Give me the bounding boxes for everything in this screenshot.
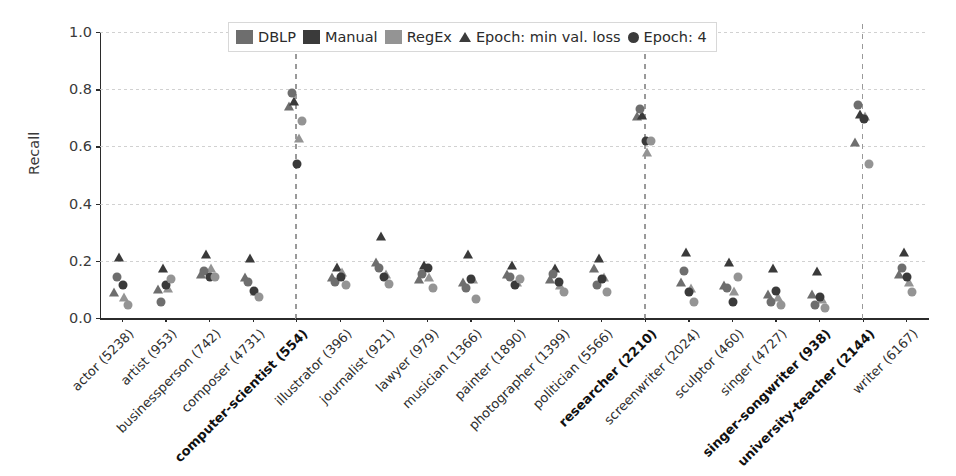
recall-scatter-chart: Recall 0.00.20.40.60.81.0 actor (5238)ar…: [0, 0, 956, 476]
reference-line: [644, 24, 646, 320]
data-point-triangle: [724, 258, 734, 267]
data-point-circle: [244, 278, 253, 287]
x-tick-mark: [688, 318, 689, 322]
x-tick-label: politician (5566): [530, 326, 616, 412]
data-point-circle: [733, 272, 742, 281]
y-tick-label: 0.4: [69, 196, 92, 212]
y-tick-mark: [96, 318, 100, 319]
data-point-circle: [679, 266, 688, 275]
x-tick-mark: [122, 318, 123, 322]
data-point-circle: [298, 116, 307, 125]
legend-label: Manual: [325, 29, 378, 45]
color-swatch-icon: [385, 30, 402, 44]
data-point-circle: [864, 159, 873, 168]
data-point-circle: [646, 136, 655, 145]
circle-marker-icon: [628, 32, 639, 43]
x-tick-mark: [340, 318, 341, 322]
data-point-circle: [603, 288, 612, 297]
gridline: [100, 89, 928, 90]
data-point-circle: [559, 288, 568, 297]
data-point-circle: [341, 281, 350, 290]
y-tick-label: 0.0: [69, 310, 92, 326]
data-point-circle: [123, 301, 132, 310]
x-tick-label: journalist (921): [317, 326, 398, 407]
data-point-circle: [118, 281, 127, 290]
data-point-circle: [821, 303, 830, 312]
data-point-triangle: [376, 232, 386, 241]
x-tick-mark: [558, 318, 559, 322]
data-point-triangle: [201, 249, 211, 258]
reference-line: [295, 24, 297, 320]
data-point-circle: [423, 263, 432, 272]
chart-legend: DBLPManualRegExEpoch: min val. lossEpoch…: [228, 22, 717, 52]
data-point-circle: [210, 272, 219, 281]
y-tick-label: 0.8: [69, 81, 92, 97]
legend-item[interactable]: Epoch: 4: [628, 29, 707, 45]
data-point-triangle: [642, 148, 652, 157]
data-point-triangle: [899, 248, 909, 257]
x-tick-mark: [645, 318, 646, 322]
legend-item[interactable]: Manual: [303, 29, 378, 45]
legend-label: Epoch: min val. loss: [476, 29, 621, 45]
x-tick-mark: [209, 318, 210, 322]
data-point-circle: [723, 283, 732, 292]
data-point-triangle: [676, 278, 686, 287]
data-point-circle: [859, 115, 868, 124]
data-point-triangle: [681, 248, 691, 257]
x-tick-mark: [383, 318, 384, 322]
legend-label: RegEx: [407, 29, 452, 45]
data-point-triangle: [158, 263, 168, 272]
data-point-triangle: [768, 263, 778, 272]
x-tick-mark: [775, 318, 776, 322]
data-point-circle: [636, 105, 645, 114]
data-point-triangle: [245, 253, 255, 262]
data-point-circle: [690, 298, 699, 307]
x-tick-mark: [906, 318, 907, 322]
y-tick-mark: [96, 146, 100, 147]
data-point-triangle: [507, 261, 517, 270]
data-point-circle: [428, 283, 437, 292]
x-tick-label: illustrator (396): [272, 326, 355, 409]
data-point-circle: [113, 272, 122, 281]
data-point-triangle: [463, 249, 473, 258]
y-tick-mark: [96, 89, 100, 90]
reference-line: [862, 24, 864, 320]
legend-item[interactable]: RegEx: [385, 29, 452, 45]
data-point-circle: [461, 283, 470, 292]
data-point-circle: [385, 279, 394, 288]
data-point-circle: [908, 288, 917, 297]
legend-label: DBLP: [258, 29, 296, 45]
data-point-circle: [816, 292, 825, 301]
y-tick-mark: [96, 261, 100, 262]
data-point-circle: [472, 295, 481, 304]
data-point-triangle: [114, 252, 124, 261]
x-tick-mark: [165, 318, 166, 322]
legend-item[interactable]: DBLP: [236, 29, 296, 45]
data-point-circle: [728, 298, 737, 307]
data-point-circle: [254, 292, 263, 301]
data-point-circle: [293, 159, 302, 168]
x-tick-mark: [296, 318, 297, 322]
x-tick-mark: [819, 318, 820, 322]
y-axis-label: Recall: [26, 132, 42, 175]
x-tick-mark: [732, 318, 733, 322]
data-point-circle: [516, 275, 525, 284]
data-point-triangle: [812, 266, 822, 275]
data-point-circle: [287, 89, 296, 98]
plot-area: 0.00.20.40.60.81.0: [100, 32, 928, 318]
x-tick-mark: [470, 318, 471, 322]
data-point-circle: [505, 272, 514, 281]
color-swatch-icon: [303, 30, 320, 44]
data-point-triangle: [850, 138, 860, 147]
data-point-circle: [167, 275, 176, 284]
x-tick-mark: [863, 318, 864, 322]
data-point-circle: [549, 269, 558, 278]
x-tick-mark: [427, 318, 428, 322]
x-tick-mark: [253, 318, 254, 322]
data-point-circle: [554, 278, 563, 287]
legend-item[interactable]: Epoch: min val. loss: [459, 29, 621, 45]
y-tick-label: 1.0: [69, 24, 92, 40]
x-tick-mark: [514, 318, 515, 322]
y-tick-mark: [96, 204, 100, 205]
legend-label: Epoch: 4: [644, 29, 707, 45]
